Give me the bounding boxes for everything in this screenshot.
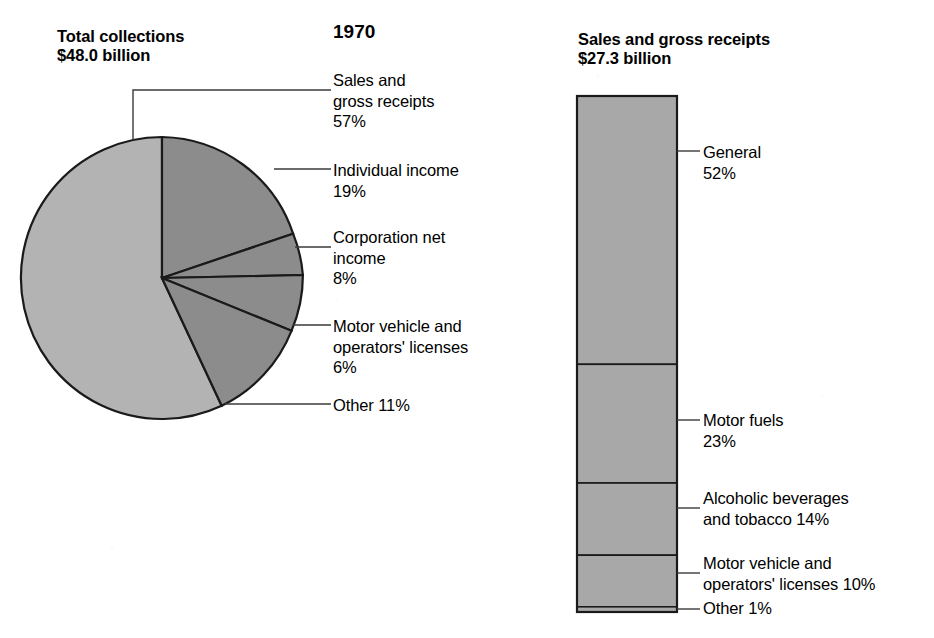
pie-leader-sales-gross-receipts xyxy=(133,90,331,140)
pie-label-individual-income: Individual income 19% xyxy=(333,160,459,201)
bar-label-alcoholic-tobacco: Alcoholic beverages and tobacco 14% xyxy=(703,488,849,529)
pie-label-corporation-net-income: Corporation net income 8% xyxy=(333,227,445,289)
bar-label-other: Other 1% xyxy=(703,598,772,619)
bar-segment-motor-fuels xyxy=(577,364,677,483)
bar-segment-general xyxy=(577,96,677,364)
pie-label-sales-gross-receipts: Sales and gross receipts 57% xyxy=(333,70,434,132)
bar-label-motor-vehicle-licenses: Motor vehicle and operators' licenses 10… xyxy=(703,553,875,594)
pie-label-motor-vehicle-licenses: Motor vehicle and operators' licenses 6% xyxy=(333,316,468,378)
pie-label-other: Other 11% xyxy=(333,395,410,416)
bar-segment-alcoholic-tobacco xyxy=(577,483,677,555)
bar-label-general: General 52% xyxy=(703,142,761,183)
bar-segment-motor-vehicle-licenses xyxy=(577,555,677,607)
bar-label-motor-fuels: Motor fuels 23% xyxy=(703,410,784,451)
